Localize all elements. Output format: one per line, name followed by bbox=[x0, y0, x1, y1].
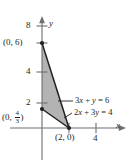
x-tick-label-4: 4 bbox=[93, 134, 98, 143]
vertex-dot-0-4-3 bbox=[40, 107, 44, 111]
graph-figure: y x 8 4 2 4 (0, 6) (0, 43) (2, 0) 3x + y… bbox=[0, 0, 133, 167]
vertex-dot-0-6 bbox=[40, 41, 44, 45]
frac-open-paren: (0, bbox=[2, 112, 14, 122]
y-tick-label-4: 4 bbox=[26, 67, 31, 76]
y-axis-label: y bbox=[49, 19, 53, 28]
x-axis-label: x bbox=[116, 121, 120, 130]
y-tick-label-2: 2 bbox=[26, 98, 31, 107]
eq1-plus: + bbox=[83, 95, 92, 105]
eq2-plus: + 3 bbox=[82, 107, 95, 117]
fraction-four-thirds: 43 bbox=[15, 110, 21, 125]
vertex-dot-2-0 bbox=[67, 126, 71, 130]
y-tick-label-8: 8 bbox=[26, 21, 31, 30]
point-label-0-four-thirds: (0, 43) bbox=[2, 110, 24, 125]
equation-label-line-1: 3x + y = 6 bbox=[75, 96, 109, 105]
y-axis-arrowhead bbox=[39, 16, 45, 23]
frac-close-paren: ) bbox=[21, 112, 24, 122]
eq1-rhs: = 6 bbox=[96, 95, 109, 105]
eq2-rhs: = 4 bbox=[99, 107, 112, 117]
fraction-numerator: 4 bbox=[15, 110, 21, 117]
equation-label-line-2: 2x + 3y = 4 bbox=[74, 108, 112, 117]
point-label-0-6: (0, 6) bbox=[3, 38, 23, 47]
fraction-denominator: 3 bbox=[15, 117, 21, 125]
point-label-2-0: (2, 0) bbox=[55, 133, 75, 142]
